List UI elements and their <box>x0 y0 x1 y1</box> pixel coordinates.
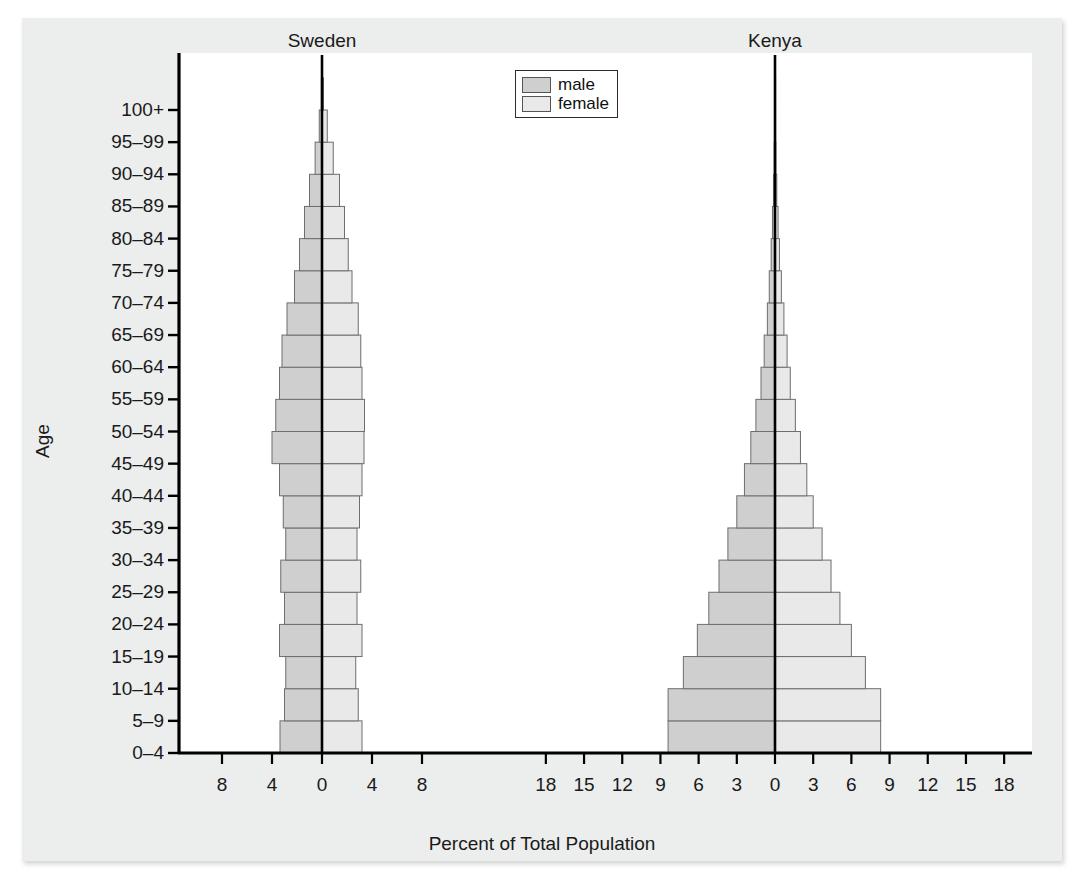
bar-male-sweden-3 <box>280 624 323 656</box>
x-tick-label-kenya-1: 15 <box>573 774 594 796</box>
legend-swatch-male <box>522 77 551 93</box>
legend: male female <box>515 70 618 118</box>
bar-male-sweden-9 <box>272 432 322 464</box>
bar-female-sweden-2 <box>322 657 356 689</box>
bar-male-sweden-11 <box>280 367 323 399</box>
legend-label-male: male <box>558 75 595 95</box>
bar-male-kenya-0 <box>668 721 775 753</box>
bar-female-kenya-0 <box>775 721 881 753</box>
x-tick-label-kenya-0: 18 <box>535 774 556 796</box>
bar-female-kenya-5 <box>775 560 831 592</box>
legend-item-male: male <box>522 75 609 94</box>
x-tick-label-kenya-3: 9 <box>655 774 666 796</box>
x-tick-label-kenya-7: 3 <box>808 774 819 796</box>
bar-female-sweden-18 <box>322 142 333 174</box>
pyramid-chart-svg <box>22 18 1062 861</box>
bar-male-sweden-16 <box>305 206 323 238</box>
bar-female-kenya-10 <box>775 399 795 431</box>
bar-male-sweden-14 <box>295 271 323 303</box>
y-tick-label-13: 65–69 <box>52 324 164 346</box>
bar-female-kenya-3 <box>775 624 851 656</box>
y-tick-label-11: 55–59 <box>52 388 164 410</box>
y-tick-label-8: 40–44 <box>52 485 164 507</box>
bar-female-sweden-11 <box>322 367 362 399</box>
x-tick-label-kenya-10: 12 <box>917 774 938 796</box>
bar-female-sweden-14 <box>322 271 352 303</box>
bar-male-sweden-13 <box>287 303 322 335</box>
y-tick-label-0: 0–4 <box>52 742 164 764</box>
bar-male-kenya-10 <box>756 399 775 431</box>
y-tick-label-17: 85–89 <box>52 195 164 217</box>
bar-female-kenya-7 <box>775 496 813 528</box>
bar-female-sweden-13 <box>322 303 358 335</box>
y-tick-label-4: 20–24 <box>52 613 164 635</box>
bar-male-sweden-7 <box>283 496 322 528</box>
x-tick-label-sweden-1: 4 <box>267 774 278 796</box>
chart-figure: Sweden Kenya Age Percent of Total Popula… <box>22 18 1062 861</box>
bar-female-sweden-8 <box>322 464 362 496</box>
bar-male-kenya-3 <box>697 624 775 656</box>
bar-male-kenya-2 <box>683 657 775 689</box>
bar-female-sweden-6 <box>322 528 357 560</box>
y-tick-label-3: 15–19 <box>52 646 164 668</box>
x-tick-label-sweden-2: 0 <box>317 774 328 796</box>
bar-female-sweden-0 <box>322 721 362 753</box>
y-tick-label-2: 10–14 <box>52 678 164 700</box>
y-tick-label-18: 90–94 <box>52 163 164 185</box>
bar-female-kenya-1 <box>775 689 881 721</box>
bar-female-kenya-12 <box>775 335 787 367</box>
bar-male-kenya-1 <box>668 689 775 721</box>
legend-label-female: female <box>558 94 609 114</box>
legend-swatch-female <box>522 96 551 112</box>
bar-male-sweden-0 <box>280 721 322 753</box>
bar-male-sweden-15 <box>300 239 323 271</box>
bar-male-sweden-4 <box>285 592 323 624</box>
y-tick-label-10: 50–54 <box>52 421 164 443</box>
bar-female-kenya-2 <box>775 657 865 689</box>
bar-female-sweden-3 <box>322 624 362 656</box>
panel-title-sweden: Sweden <box>288 30 357 52</box>
bar-female-sweden-5 <box>322 560 361 592</box>
bar-female-kenya-11 <box>775 367 790 399</box>
bar-male-kenya-8 <box>744 464 775 496</box>
y-tick-label-6: 30–34 <box>52 549 164 571</box>
bar-male-kenya-6 <box>728 528 775 560</box>
y-axis-title: Age <box>32 424 54 458</box>
bar-male-kenya-11 <box>761 367 775 399</box>
bar-male-sweden-8 <box>280 464 323 496</box>
bar-male-kenya-12 <box>764 335 775 367</box>
y-tick-label-14: 70–74 <box>52 292 164 314</box>
x-tick-label-sweden-4: 8 <box>417 774 428 796</box>
bar-female-sweden-4 <box>322 592 357 624</box>
x-axis-title: Percent of Total Population <box>429 833 656 855</box>
x-tick-label-kenya-6: 0 <box>770 774 781 796</box>
bar-male-sweden-10 <box>276 399 322 431</box>
x-tick-label-kenya-9: 9 <box>884 774 895 796</box>
y-tick-label-1: 5–9 <box>52 710 164 732</box>
panel-title-kenya: Kenya <box>748 30 802 52</box>
bar-male-sweden-12 <box>282 335 322 367</box>
bar-female-sweden-7 <box>322 496 360 528</box>
x-tick-label-kenya-2: 12 <box>612 774 633 796</box>
bar-male-sweden-2 <box>286 657 322 689</box>
y-tick-label-15: 75–79 <box>52 260 164 282</box>
bar-female-kenya-13 <box>775 303 784 335</box>
x-tick-label-kenya-4: 6 <box>693 774 704 796</box>
x-tick-label-sweden-3: 4 <box>367 774 378 796</box>
bar-female-sweden-12 <box>322 335 361 367</box>
y-tick-label-20: 100+ <box>52 99 164 121</box>
bar-male-sweden-1 <box>285 689 323 721</box>
bar-female-sweden-10 <box>322 399 365 431</box>
bar-female-kenya-9 <box>775 432 800 464</box>
x-tick-label-kenya-12: 18 <box>994 774 1015 796</box>
bar-male-kenya-4 <box>709 592 775 624</box>
plot-area: Sweden Kenya Age Percent of Total Popula… <box>22 18 1062 861</box>
bar-male-kenya-5 <box>719 560 775 592</box>
x-tick-label-sweden-0: 8 <box>217 774 228 796</box>
legend-item-female: female <box>522 94 609 113</box>
bar-male-sweden-6 <box>286 528 322 560</box>
x-tick-label-kenya-5: 3 <box>732 774 743 796</box>
bar-male-kenya-9 <box>751 432 775 464</box>
bar-female-sweden-17 <box>322 174 340 206</box>
bar-female-sweden-15 <box>322 239 348 271</box>
